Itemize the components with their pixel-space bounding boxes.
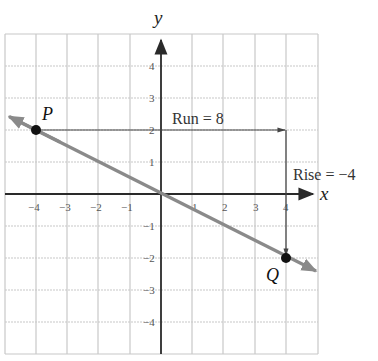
svg-text:2: 2 [222,201,228,213]
svg-text:−1: −1 [143,220,155,232]
point-q-label: Q [266,265,279,285]
point-q [281,253,291,263]
y-axis-label: y [152,7,163,28]
svg-text:−4: −4 [28,201,40,213]
x-axis-label: x [319,183,329,204]
svg-text:−2: −2 [90,201,102,213]
coordinate-plane: x y −4 −3 −2 −1 1 2 3 4 4 3 2 1 −1 −2 −3… [0,0,378,361]
svg-text:3: 3 [149,92,155,104]
point-p-label: P [41,104,53,124]
x-tick-labels: −4 −3 −2 −1 1 2 3 4 [28,201,289,213]
svg-text:−2: −2 [143,252,155,264]
svg-text:1: 1 [149,156,155,168]
svg-text:−3: −3 [143,284,155,296]
svg-text:−1: −1 [121,201,133,213]
svg-text:3: 3 [253,201,259,213]
svg-text:−4: −4 [143,316,155,328]
point-p [31,125,41,135]
svg-text:−3: −3 [59,201,71,213]
svg-text:4: 4 [149,60,155,72]
rise-label: Rise = −4 [293,166,356,183]
run-label: Run = 8 [172,110,224,127]
